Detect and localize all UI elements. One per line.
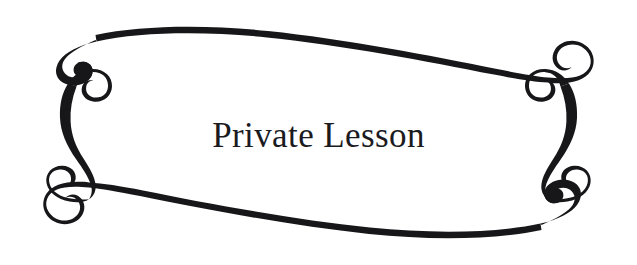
top-sweep-swash (56, 27, 594, 86)
calligraphic-swash-frame (0, 0, 637, 265)
ornamental-title-card: Private Lesson (0, 0, 637, 265)
bottom-sweep-swash (43, 180, 581, 239)
